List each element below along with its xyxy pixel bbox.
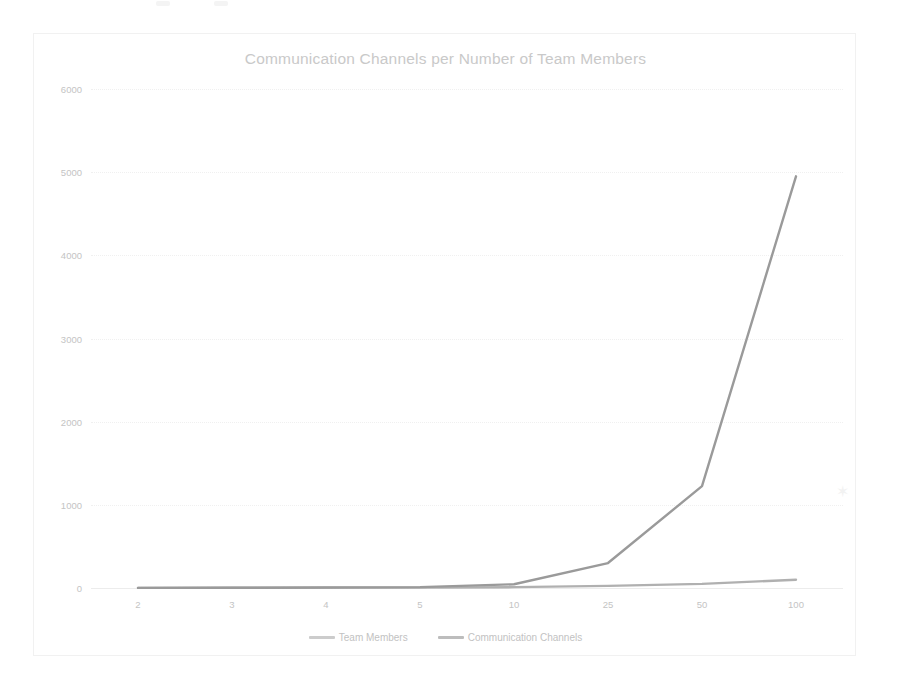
plot-area: 0100020003000400050006000 2345102550100 … [91,89,843,588]
x-axis-tick-label: 2 [135,599,140,610]
scan-artifact-top [0,0,897,14]
chart-container[interactable]: Communication Channels per Number of Tea… [33,33,856,656]
y-axis-tick-label: 0 [77,583,82,594]
y-axis-tick-label: 4000 [61,250,82,261]
legend-color-swatch [309,636,335,639]
y-axis-tick-label: 5000 [61,167,82,178]
scan-speck [156,1,170,6]
y-axis-tick-label: 3000 [61,333,82,344]
legend-item[interactable]: Team Members [309,632,408,643]
y-axis-tick-label: 6000 [61,84,82,95]
y-axis-tick-label: 1000 [61,499,82,510]
y-axis-tick-label: 2000 [61,416,82,427]
series-line [138,176,796,588]
x-axis-tick-label: 25 [603,599,614,610]
chart-title: Communication Channels per Number of Tea… [34,50,857,68]
scan-speck [214,1,228,6]
x-axis-tick-label: 3 [229,599,234,610]
legend-label: Communication Channels [468,632,583,643]
x-axis-tick-label: 4 [323,599,328,610]
chart-legend: Team MembersCommunication Channels [34,632,857,643]
x-axis-tick-label: 50 [697,599,708,610]
legend-color-swatch [438,636,464,639]
legend-item[interactable]: Communication Channels [438,632,583,643]
legend-label: Team Members [339,632,408,643]
x-axis-tick-label: 100 [788,599,804,610]
x-axis-tick-label: 5 [417,599,422,610]
x-axis-tick-label: 10 [509,599,520,610]
series-lines [91,89,843,588]
